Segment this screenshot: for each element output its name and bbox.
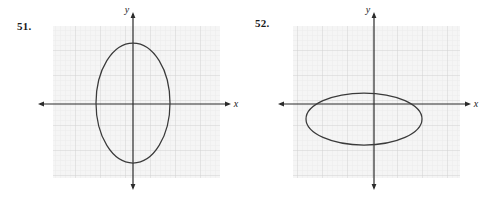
- grid-52: [293, 26, 460, 178]
- graph-canvas-51: x y: [0, 0, 246, 201]
- ellipse-graph-51: x y: [0, 0, 246, 201]
- y-axis-label-52: y: [365, 4, 371, 15]
- problem-52: 52.: [247, 0, 493, 201]
- x-axis-right-arrow-icon: [225, 102, 231, 107]
- x-axis-label-51: x: [233, 98, 239, 109]
- y-axis-down-arrow-icon: [131, 184, 136, 190]
- y-axis-up-arrow-icon: [372, 12, 377, 18]
- graph-canvas-52: x y: [247, 0, 493, 201]
- x-axis-left-arrow-icon: [38, 102, 44, 107]
- grid-51: [53, 26, 220, 178]
- y-axis-up-arrow-icon: [131, 12, 136, 18]
- ellipse-graph-52: x y: [247, 0, 493, 201]
- y-axis-label-51: y: [124, 4, 130, 15]
- x-axis-left-arrow-icon: [278, 102, 284, 107]
- figure-page: 51.: [0, 0, 493, 201]
- problem-51: 51.: [0, 0, 246, 201]
- x-axis-label-52: x: [473, 98, 479, 109]
- x-axis-right-arrow-icon: [465, 102, 471, 107]
- y-axis-down-arrow-icon: [372, 184, 377, 190]
